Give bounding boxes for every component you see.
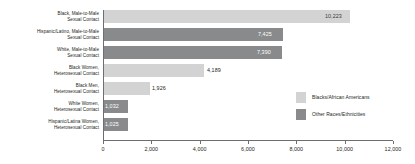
bar-value-label: 7,425 (258, 28, 272, 41)
y-axis-line (103, 10, 104, 141)
bar-value-label: 10,223 (325, 10, 342, 23)
bar-chart: Black, Male-to-Male Sexual Contact Hispa… (0, 0, 415, 164)
x-axis-tick (248, 141, 249, 144)
legend-swatch-icon (296, 109, 306, 120)
category-label: White, Male-to-Male Sexual Contact (0, 47, 99, 58)
category-label: Black Women, Heterosexual Contact (0, 65, 99, 76)
category-label: Hispanic/Latina Women, Heterosexual Cont… (0, 119, 99, 130)
category-label-line2: Sexual Contact (0, 53, 99, 59)
x-axis-tick (200, 141, 201, 144)
category-axis-labels: Black, Male-to-Male Sexual Contact Hispa… (0, 10, 101, 140)
x-axis-tick-label: 10,000 (336, 146, 353, 152)
bar-value-label: 7,390 (257, 46, 271, 59)
x-axis-tick-label: 8,000 (289, 146, 303, 152)
category-label-line1: Black Women, (69, 65, 99, 70)
bar[interactable] (103, 64, 204, 77)
bar[interactable] (103, 46, 282, 59)
category-label: Black Men, Heterosexual Contact (0, 83, 99, 94)
category-label: White Women, Heterosexual Contact (0, 101, 99, 112)
x-axis-tick-label: 6,000 (241, 146, 255, 152)
legend: Blacks/African Americans Other Races/Eth… (296, 92, 411, 126)
bar-value-label: 1,926 (152, 82, 166, 95)
category-label-line1: Black Men, (76, 83, 99, 88)
category-label-line1: Hispanic/Latina Women, (48, 119, 99, 124)
legend-label: Other Races/Ethnicities (312, 109, 365, 120)
legend-item[interactable]: Other Races/Ethnicities (296, 109, 411, 122)
legend-label: Blacks/African Americans (312, 92, 370, 103)
x-axis-tick-label: 4,000 (193, 146, 207, 152)
bar-value-label: 1,032 (105, 100, 119, 113)
category-label-line2: Heterosexual Contact (0, 89, 99, 95)
category-label-line1: White Women, (68, 101, 99, 106)
category-label-line2: Sexual Contact (0, 35, 99, 41)
category-label-line2: Sexual Contact (0, 17, 99, 23)
bar[interactable] (103, 28, 283, 41)
category-label-line1: Black, Male-to-Male (58, 11, 99, 16)
bar-value-label: 1,025 (105, 118, 119, 131)
x-axis-tick-label: 2,000 (144, 146, 158, 152)
x-axis-tick (103, 141, 104, 144)
category-label-line2: Heterosexual Contact (0, 107, 99, 113)
category-label-line1: White, Male-to-Male (57, 47, 99, 52)
category-label: Hispanic/Latino, Male-to-Male Sexual Con… (0, 29, 99, 40)
x-axis-tick (296, 141, 297, 144)
x-axis-tick (345, 141, 346, 144)
legend-swatch-icon (296, 92, 306, 103)
category-label-line2: Heterosexual Contact (0, 71, 99, 77)
category-label: Black, Male-to-Male Sexual Contact (0, 11, 99, 22)
x-axis-tick (393, 141, 394, 144)
bar[interactable] (103, 10, 350, 23)
x-axis-tick-label: 12,000 (385, 146, 402, 152)
legend-item[interactable]: Blacks/African Americans (296, 92, 411, 105)
bar[interactable] (103, 82, 150, 95)
category-label-line1: Hispanic/Latino, Male-to-Male (37, 29, 99, 34)
category-label-line2: Heterosexual Contact (0, 125, 99, 131)
x-axis-tick (151, 141, 152, 144)
x-axis-tick-label: 0 (101, 146, 104, 152)
bar-value-label: 4,189 (207, 64, 221, 77)
